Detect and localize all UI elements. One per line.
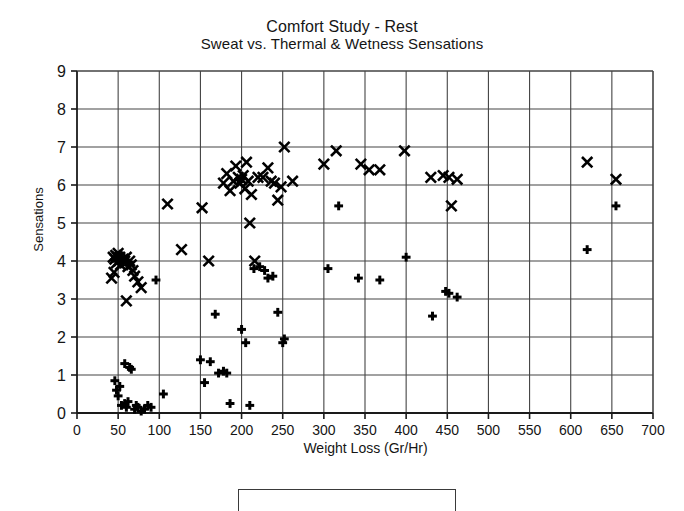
- data-point: [197, 203, 207, 213]
- x-tick-label: 0: [73, 422, 81, 438]
- y-tick-label: 2: [57, 329, 66, 346]
- y-tick-label: 7: [57, 139, 66, 156]
- data-point: [583, 245, 592, 254]
- data-point: [402, 253, 411, 262]
- data-point: [226, 399, 235, 408]
- y-tick-label: 4: [57, 253, 66, 270]
- data-point: [453, 293, 462, 302]
- data-point: [354, 274, 363, 283]
- data-point: [176, 244, 186, 254]
- data-point: [162, 199, 172, 209]
- data-point: [428, 312, 437, 321]
- x-tick-label: 100: [148, 422, 172, 438]
- data-point: [196, 355, 205, 364]
- gridlines: [77, 71, 653, 413]
- data-point: [375, 165, 385, 175]
- x-tick-label: 500: [477, 422, 501, 438]
- data-point: [612, 202, 621, 211]
- y-tick-label: 8: [57, 101, 66, 118]
- x-tick-label: 400: [394, 422, 418, 438]
- tick-marks: [71, 71, 653, 419]
- data-point: [159, 390, 168, 399]
- data-point: [582, 157, 592, 167]
- data-point: [263, 163, 273, 173]
- x-tick-label: 700: [641, 422, 665, 438]
- data-point: [334, 202, 343, 211]
- data-point: [241, 338, 250, 347]
- x-tick-label: 150: [189, 422, 213, 438]
- data-point: [211, 310, 220, 319]
- x-tick-label: 350: [353, 422, 377, 438]
- x-tick-label: 250: [271, 422, 295, 438]
- data-point: [246, 189, 256, 199]
- series-cross: [106, 142, 621, 306]
- data-point: [375, 276, 384, 285]
- x-tick-label: 50: [110, 422, 126, 438]
- y-axis-title: Sensations: [31, 160, 46, 280]
- data-point: [245, 401, 254, 410]
- y-tick-label: 1: [57, 367, 66, 384]
- x-axis-title: Weight Loss (Gr/Hr): [77, 440, 654, 456]
- x-tick-label: 200: [230, 422, 254, 438]
- data-point: [452, 174, 462, 184]
- legend-box: [238, 489, 456, 511]
- y-tick-label: 3: [57, 291, 66, 308]
- data-point: [231, 161, 241, 171]
- data-point: [241, 157, 251, 167]
- tick-labels: 0501001502002503003504004505005506006507…: [57, 63, 665, 438]
- data-point: [324, 264, 333, 273]
- x-tick-label: 650: [600, 422, 624, 438]
- x-tick-label: 600: [559, 422, 583, 438]
- data-point: [426, 172, 436, 182]
- data-point: [121, 296, 131, 306]
- x-tick-label: 450: [436, 422, 460, 438]
- x-tick-label: 300: [312, 422, 336, 438]
- data-point: [237, 325, 246, 334]
- y-tick-label: 9: [57, 63, 66, 80]
- data-point: [200, 378, 209, 387]
- y-tick-label: 6: [57, 177, 66, 194]
- y-tick-label: 5: [57, 215, 66, 232]
- data-point: [273, 195, 283, 205]
- data-point: [206, 357, 215, 366]
- y-tick-label: 0: [57, 405, 66, 422]
- data-point: [225, 186, 235, 196]
- x-tick-label: 550: [518, 422, 542, 438]
- data-point: [273, 308, 282, 317]
